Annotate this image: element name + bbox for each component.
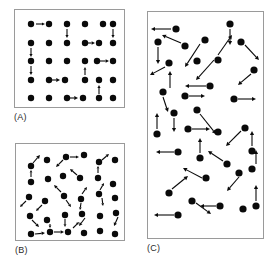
data-point [206, 82, 213, 89]
panel-label-b: (B) [15, 245, 28, 255]
arrow-head [49, 225, 52, 228]
data-point [28, 179, 34, 185]
data-point [77, 175, 83, 181]
arrow-shaft [241, 74, 251, 82]
arrow-shaft [187, 170, 202, 178]
data-point [46, 21, 52, 27]
panel-label-c: (C) [147, 243, 160, 253]
data-point [165, 189, 172, 196]
data-point [26, 194, 32, 200]
data-point [82, 40, 88, 46]
data-point [96, 95, 102, 101]
arrow-head [250, 131, 254, 135]
data-point [95, 175, 101, 181]
data-point [110, 77, 116, 83]
arrow-head [97, 166, 100, 169]
arrow-head [154, 213, 158, 217]
arrow-head [30, 170, 33, 173]
data-point [181, 42, 188, 49]
data-point [202, 174, 209, 181]
data-point [64, 58, 70, 64]
arrow-shaft [100, 185, 103, 190]
data-point [159, 88, 166, 95]
arrow-head [92, 41, 95, 45]
data-point [214, 128, 221, 135]
arrow-head [252, 97, 256, 101]
data-point [46, 95, 52, 101]
data-point [181, 92, 188, 99]
data-point [96, 77, 102, 83]
panel-c-random-pattern [147, 11, 264, 239]
arrow-head [201, 94, 205, 98]
panel-b-plot-area [16, 144, 126, 242]
arrow-shaft [245, 45, 256, 57]
data-point [110, 58, 116, 64]
arrow-shaft [56, 187, 61, 192]
panel-c-plot-area [148, 12, 265, 240]
data-point [170, 109, 177, 116]
data-point [193, 57, 200, 64]
arrow-shaft [72, 171, 77, 175]
data-point [96, 40, 102, 46]
data-point [174, 211, 181, 218]
data-point [47, 229, 53, 235]
panel-a-regular-lattice [14, 9, 125, 108]
data-point [62, 77, 68, 83]
data-point [110, 21, 116, 27]
data-point [97, 228, 103, 234]
data-point [46, 58, 52, 64]
arrow-head [185, 84, 189, 88]
data-point [248, 147, 255, 154]
data-point [82, 58, 88, 64]
data-point [28, 77, 34, 83]
arrow-head [29, 72, 32, 75]
data-point [214, 56, 221, 63]
data-point [248, 165, 255, 172]
data-point [65, 229, 71, 235]
data-point [201, 36, 208, 43]
data-point [94, 58, 100, 64]
arrow-shaft [196, 203, 208, 212]
data-point [28, 21, 34, 27]
arrow-head [61, 230, 64, 234]
data-point [79, 211, 85, 217]
data-point [63, 154, 69, 160]
data-point [62, 212, 68, 218]
data-point [64, 21, 70, 27]
arrow-shaft [199, 60, 214, 77]
arrow-shaft [73, 224, 77, 228]
data-point [28, 95, 34, 101]
data-point [112, 231, 118, 237]
arrow-shaft [115, 217, 118, 223]
data-point [80, 95, 86, 101]
data-point [64, 95, 70, 101]
data-point [230, 95, 237, 102]
arrow-shaft [229, 131, 241, 143]
arrow-shaft [66, 200, 69, 205]
arrow-head [56, 78, 60, 82]
data-point [42, 198, 48, 204]
data-point [61, 193, 67, 199]
arrow-head [84, 67, 87, 70]
arrow-head [168, 71, 172, 75]
arrow-head [41, 232, 45, 236]
arrow-shaft [102, 156, 107, 160]
data-point [28, 163, 34, 169]
data-point [28, 231, 34, 237]
data-point [112, 157, 118, 163]
arrow-shaft [22, 201, 26, 205]
data-point [110, 40, 116, 46]
data-point [97, 213, 103, 219]
panel-label-a: (A) [14, 112, 27, 122]
data-point [154, 38, 161, 45]
arrow-head [172, 128, 176, 132]
data-point [44, 157, 50, 163]
data-point [223, 160, 230, 167]
data-point [81, 152, 87, 158]
panel-b-perturbed-lattice [15, 143, 125, 241]
arrow-head [29, 54, 32, 57]
arrow-head [76, 155, 79, 158]
data-point [193, 106, 200, 113]
data-point [28, 40, 34, 46]
arrow-shaft [163, 97, 167, 108]
